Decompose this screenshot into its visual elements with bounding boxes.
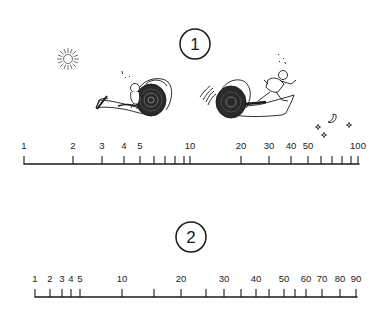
tick-label: 1 [32, 273, 37, 284]
sun-icon [57, 48, 79, 70]
tick-label: 3 [99, 140, 104, 151]
badge-1: 1 [180, 29, 210, 59]
tick-label: 3 [59, 273, 64, 284]
left-scene-child-pushing-roll [96, 71, 172, 116]
tick-label: 90 [351, 273, 362, 284]
tick-label: 40 [286, 140, 297, 151]
tick-label: 100 [350, 140, 366, 151]
tick-label: 4 [68, 273, 73, 284]
moon-stars-icon [316, 114, 352, 138]
scale-2: 12345102030405060708090 [32, 273, 361, 297]
tick-label: 5 [77, 273, 82, 284]
log-scale-1: 123451020304050100 [21, 140, 366, 164]
badge-2: 2 [176, 222, 206, 252]
tick-label: 2 [70, 140, 75, 151]
log-scale-diagram: 1 [0, 0, 383, 309]
tick-label: 2 [47, 273, 52, 284]
tick-label: 30 [264, 140, 275, 151]
tick-label: 5 [137, 140, 142, 151]
tick-label: 1 [21, 140, 26, 151]
right-scene-man-running-roll [200, 54, 296, 118]
tick-label: 50 [303, 140, 314, 151]
tick-label: 20 [236, 140, 247, 151]
svg-text:2: 2 [186, 228, 195, 247]
tick-label: 20 [176, 273, 187, 284]
tick-label: 60 [301, 273, 312, 284]
tick-label: 40 [251, 273, 262, 284]
tick-label: 30 [219, 273, 230, 284]
tick-label: 80 [335, 273, 346, 284]
tick-label: 10 [117, 273, 128, 284]
tick-label: 10 [185, 140, 196, 151]
tick-label: 4 [121, 140, 126, 151]
tick-label: 50 [279, 273, 290, 284]
tick-label: 70 [317, 273, 328, 284]
svg-text:1: 1 [190, 35, 199, 54]
